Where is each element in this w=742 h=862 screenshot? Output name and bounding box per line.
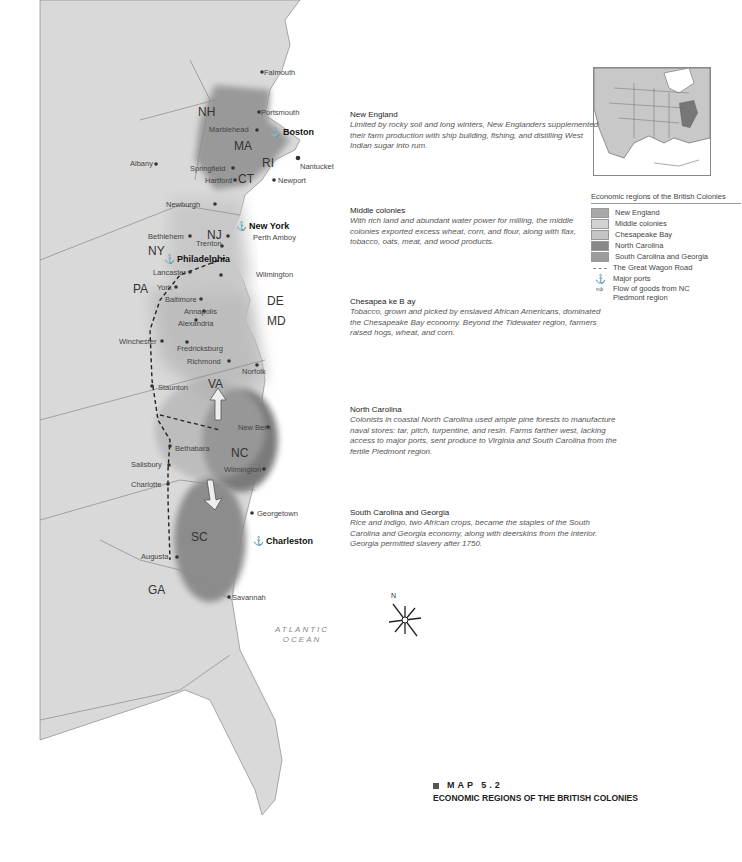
region-body: Tobacco, grown and picked by enslaved Af… (350, 307, 602, 339)
region-body: Rice and indigo, two African crops, beca… (350, 518, 620, 550)
region-body: Colonists in coastal North Carolina used… (350, 415, 620, 457)
city-label: Fredricksburg (177, 345, 223, 353)
state-label: MD (267, 315, 286, 327)
map-title: ECONOMIC REGIONS OF THE BRITISH COLONIES (433, 793, 638, 803)
compass-rose: N (385, 600, 425, 644)
city-name: Charlotte (131, 480, 161, 489)
legend-label: Flow of goods from NC Piedmont region (613, 284, 693, 302)
city-label: Newport (278, 177, 306, 185)
city-name: Albany (130, 159, 153, 168)
map-caption: MAP 5.2 ECONOMIC REGIONS OF THE BRITISH … (433, 780, 638, 803)
legend-item: South Carolina and Georgia (591, 251, 741, 262)
compass-icon (385, 600, 425, 640)
region-body: With rich land and abundant water power … (350, 216, 602, 248)
ocean-label-line2: OCEAN (275, 635, 329, 645)
anchor-icon: ⚓ (591, 274, 609, 284)
city-name: Trenton (196, 239, 222, 248)
region-title: Middle colonies (350, 206, 602, 215)
city-name: Springfield (190, 164, 225, 173)
city-name: Annapolis (184, 307, 217, 316)
region-title: New England (350, 110, 602, 119)
state-label: PA (133, 283, 148, 295)
city-label: Georgetown (257, 510, 298, 518)
city-name: Wilmington (224, 465, 261, 474)
city-label: Alexandria (178, 320, 213, 328)
city-label: Trenton (196, 240, 222, 248)
city-name: New Bern (238, 423, 271, 432)
legend-item-flow-of-goods: ⇨ Flow of goods from NC Piedmont region (591, 284, 741, 304)
city-name: Staunton (158, 383, 188, 392)
legend-label: Major ports (613, 274, 651, 283)
legend-item-wagon-road: - - - The Great Wagon Road (591, 262, 741, 273)
city-label: Perth Amboy (253, 234, 296, 242)
city-label: Marblehead (209, 126, 249, 134)
city-label: Norfolk (242, 368, 266, 376)
city-name: Boston (283, 127, 314, 137)
city-label: Savannah (232, 594, 266, 602)
city-name: Fredricksburg (177, 344, 223, 353)
city-label: Hartford (205, 177, 232, 185)
map-number-text: MAP 5.2 (447, 780, 503, 790)
city-name: Perth Amboy (253, 233, 296, 242)
city-label: Wilmington (256, 271, 293, 279)
city-label: York (157, 284, 172, 292)
anchor-icon: ⚓ (270, 127, 281, 137)
legend-item-major-ports: ⚓ Major ports (591, 273, 741, 284)
region-desc-chesapeake: Chesapea ke B ay Tobacco, grown and pick… (350, 297, 602, 339)
legend-swatch (591, 230, 609, 240)
inset-locator-map (593, 67, 711, 176)
anchor-icon: ⚓ (236, 221, 247, 231)
city-name: Richmond (187, 357, 221, 366)
legend-swatch (591, 208, 609, 218)
city-name: Bethlehem (148, 232, 184, 241)
region-body: Limited by rocky soil and long winters, … (350, 120, 602, 152)
region-title: Chesapea ke B ay (350, 297, 602, 306)
legend-title: Economic regions of the British Colonies (591, 192, 741, 204)
city-name: Bethabara (175, 444, 210, 453)
anchor-icon: ⚓ (253, 536, 264, 546)
city-name: York (157, 283, 172, 292)
city-label: Nantucket (300, 163, 334, 171)
city-label: Newburgh (166, 201, 200, 209)
state-label: NY (148, 245, 165, 257)
state-label: GA (148, 584, 165, 596)
legend-swatch (591, 252, 609, 262)
city-name: Savannah (232, 593, 266, 602)
city-label: Wilmington (224, 466, 261, 474)
city-label: New Bern (238, 424, 271, 432)
city-label: Falmouth (264, 69, 295, 77)
city-name: Salisbury (131, 460, 162, 469)
city-name: Georgetown (257, 509, 298, 518)
city-label: Portsmouth (261, 109, 299, 117)
city-name: Newport (278, 176, 306, 185)
legend-item: New England (591, 207, 741, 218)
city-name: Baltimore (165, 295, 197, 304)
ocean-label: ATLANTIC OCEAN (275, 625, 329, 645)
city-label: Albany (130, 160, 153, 168)
legend-label: The Great Wagon Road (613, 263, 692, 272)
city-name: Marblehead (209, 125, 249, 134)
city-label: Staunton (158, 384, 188, 392)
city-label: Winchester (119, 338, 157, 346)
compass-north-label: N (391, 592, 396, 599)
region-desc-south-carolina-georgia: South Carolina and Georgia Rice and indi… (350, 508, 620, 550)
north-america-icon (594, 68, 710, 175)
city-name: Portsmouth (261, 108, 299, 117)
city-name: Lancaster (153, 268, 186, 277)
state-label: CT (238, 173, 254, 185)
city-label: Richmond (187, 358, 221, 366)
map-legend: Economic regions of the British Colonies… (591, 192, 741, 304)
city-label: Bethabara (175, 445, 210, 453)
city-label: Bethlehem (148, 233, 184, 241)
legend-label: New England (615, 208, 660, 217)
port-city-label: ⚓Philadelphia (164, 255, 230, 264)
city-label: Springfield (190, 165, 225, 173)
city-name: Newburgh (166, 200, 200, 209)
state-label: MA (234, 140, 252, 152)
city-name: Norfolk (242, 367, 266, 376)
legend-label: Middle colonies (615, 219, 667, 228)
region-desc-north-carolina: North Carolina Colonists in coastal Nort… (350, 405, 620, 457)
dashed-line-icon: - - - (591, 263, 609, 273)
legend-label: South Carolina and Georgia (615, 252, 708, 261)
city-name: Alexandria (178, 319, 213, 328)
